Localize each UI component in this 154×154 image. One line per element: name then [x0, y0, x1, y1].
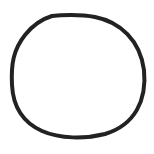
circle-outline-shape: [12, 15, 145, 137]
drawing-canvas: [0, 0, 154, 154]
